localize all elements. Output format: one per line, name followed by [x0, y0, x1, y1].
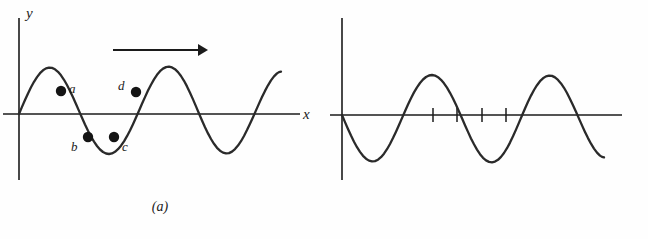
wave-direction-arrow: [113, 44, 208, 56]
marked-point-b: [83, 132, 93, 142]
panel-b-plot: [324, 0, 648, 239]
point-label-d: d: [118, 79, 125, 92]
panel-a: y x a b c d (a): [0, 0, 324, 239]
point-label-a: a: [69, 82, 76, 95]
point-label-b: b: [71, 140, 78, 153]
x-axis-label-a: x: [303, 107, 310, 122]
wave-curve-a: [19, 67, 281, 154]
wave-curve-b: [342, 75, 604, 162]
panel-caption-a: (a): [130, 200, 190, 214]
marked-point-a: [56, 86, 66, 96]
wave-figure: y x a b c d (a) y t e f g h (b): [0, 0, 648, 239]
y-axis-label-a: y: [26, 6, 33, 21]
marked-point-c: [109, 132, 119, 142]
marked-point-d: [131, 87, 141, 97]
point-label-c: c: [122, 140, 128, 153]
panel-b: y t e f g h (b): [324, 0, 648, 239]
